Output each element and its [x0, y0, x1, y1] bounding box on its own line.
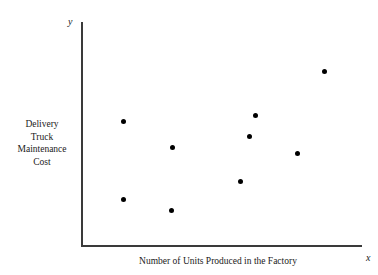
data-point: [169, 208, 174, 213]
scatter-plot-figure: y x Delivery Truck Maintenance Cost Numb…: [0, 0, 378, 275]
data-point: [121, 119, 126, 124]
data-point: [253, 113, 258, 118]
data-point: [295, 151, 300, 156]
data-points-layer: [0, 0, 378, 275]
data-point: [121, 197, 126, 202]
data-point: [170, 145, 175, 150]
data-point: [238, 179, 243, 184]
data-point: [247, 134, 252, 139]
data-point: [322, 69, 327, 74]
